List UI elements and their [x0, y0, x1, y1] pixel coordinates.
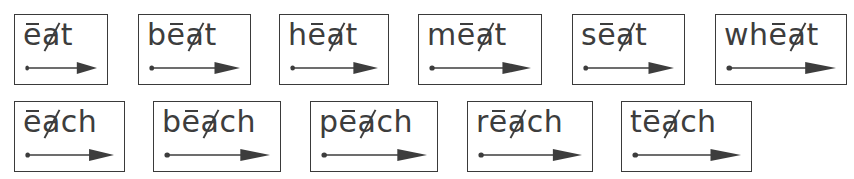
- blend-arrow-icon: [149, 61, 240, 75]
- ending-letters: t: [61, 17, 73, 52]
- long-vowel-letter: e: [308, 17, 327, 53]
- word-text: meat: [427, 17, 507, 53]
- blend-arrow-icon: [478, 148, 582, 162]
- ending-letters: ch: [680, 104, 717, 139]
- silent-vowel-letter: a: [358, 104, 377, 140]
- long-vowel-letter: e: [769, 17, 788, 53]
- ending-letters: t: [204, 17, 216, 52]
- word-text: wheat: [724, 17, 819, 53]
- word-text: reach: [476, 104, 563, 140]
- ending-letters: ch: [527, 104, 564, 139]
- silent-vowel-letter: a: [326, 17, 345, 53]
- word-text: heat: [288, 17, 358, 53]
- onset-letters: r: [476, 104, 489, 139]
- onset-letters: t: [630, 104, 642, 139]
- silent-vowel-letter: a: [42, 17, 61, 53]
- ending-letters: ch: [219, 104, 256, 139]
- word-card-eat: eat: [14, 14, 108, 85]
- ending-letters: ch: [376, 104, 413, 139]
- word-text: each: [23, 104, 97, 140]
- silent-vowel-letter: a: [42, 104, 61, 140]
- blend-arrow-icon: [429, 61, 531, 75]
- word-card-meat: meat: [418, 14, 542, 85]
- onset-letters: wh: [724, 17, 769, 52]
- long-vowel-letter: e: [457, 17, 476, 53]
- ending-letters: ch: [61, 104, 98, 139]
- onset-letters: b: [147, 17, 167, 52]
- silent-vowel-letter: a: [201, 104, 220, 140]
- silent-vowel-letter: a: [788, 17, 807, 53]
- silent-vowel-letter: a: [661, 104, 680, 140]
- blend-arrow-icon: [164, 148, 270, 162]
- blend-arrow-icon: [290, 61, 378, 75]
- word-card-beach: beach: [153, 101, 281, 172]
- long-vowel-letter: e: [642, 104, 661, 140]
- blend-arrow-icon: [321, 148, 427, 162]
- word-card-reach: reach: [467, 101, 593, 172]
- blend-arrow-icon: [25, 148, 114, 162]
- long-vowel-letter: e: [489, 104, 508, 140]
- word-card-each: each: [14, 101, 125, 172]
- long-vowel-letter: e: [167, 17, 186, 53]
- ending-letters: t: [345, 17, 357, 52]
- word-text: teach: [630, 104, 717, 140]
- blend-arrow-icon: [25, 61, 97, 75]
- long-vowel-letter: e: [23, 104, 42, 140]
- blend-arrow-icon: [726, 61, 836, 75]
- blend-arrow-icon: [632, 148, 741, 162]
- onset-letters: s: [581, 17, 597, 52]
- word-card-beat: beat: [138, 14, 251, 85]
- onset-letters: b: [162, 104, 182, 139]
- long-vowel-letter: e: [23, 17, 42, 53]
- blend-arrow-icon: [583, 61, 674, 75]
- ending-letters: t: [635, 17, 647, 52]
- onset-letters: m: [427, 17, 457, 52]
- onset-letters: p: [319, 104, 339, 139]
- word-text: seat: [581, 17, 647, 53]
- ending-letters: t: [495, 17, 507, 52]
- word-text: eat: [23, 17, 73, 53]
- silent-vowel-letter: a: [186, 17, 205, 53]
- onset-letters: h: [288, 17, 308, 52]
- word-card-heat: heat: [279, 14, 389, 85]
- silent-vowel-letter: a: [616, 17, 635, 53]
- long-vowel-letter: e: [182, 104, 201, 140]
- silent-vowel-letter: a: [476, 17, 495, 53]
- word-card-wheat: wheat: [715, 14, 847, 85]
- ending-letters: t: [806, 17, 818, 52]
- word-card-peach: peach: [310, 101, 438, 172]
- long-vowel-letter: e: [597, 17, 616, 53]
- long-vowel-letter: e: [339, 104, 358, 140]
- silent-vowel-letter: a: [508, 104, 527, 140]
- word-card-teach: teach: [621, 101, 752, 172]
- word-text: peach: [319, 104, 413, 140]
- word-text: beach: [162, 104, 256, 140]
- word-card-seat: seat: [572, 14, 685, 85]
- word-text: beat: [147, 17, 217, 53]
